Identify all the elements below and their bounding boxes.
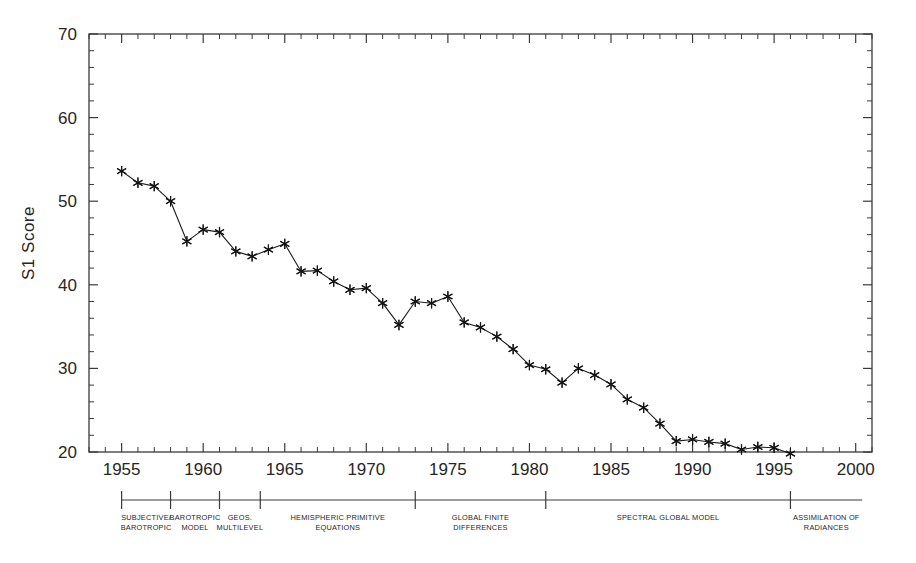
y-tick-label-40: 40: [58, 276, 77, 295]
era-label-line2: RADIANCES: [804, 523, 849, 532]
x-tick-label-1955: 1955: [103, 460, 141, 479]
era-label-line1: ASSIMILATION OF: [793, 513, 860, 522]
era-label-line1: BAROTROPIC: [170, 513, 221, 522]
data-series-line: [122, 171, 791, 454]
data-point-marker: [492, 331, 501, 341]
y-tick-label-70: 70: [58, 25, 77, 44]
x-tick-label-1995: 1995: [755, 460, 793, 479]
x-tick-label-2000: 2000: [837, 460, 875, 479]
chart-container: 203040506070 195519601965197019751980198…: [0, 0, 916, 563]
era-label-line1: SUBJECTIVE/: [121, 513, 172, 522]
era-label-line2: BAROTROPIC: [121, 523, 172, 532]
era-label-line2: MULTILEVEL: [217, 523, 264, 532]
era-label-line1: GLOBAL FINITE: [452, 513, 509, 522]
era-label-line1: GEOS.: [228, 513, 252, 522]
x-tick-label-1980: 1980: [511, 460, 549, 479]
era-label-line2: EQUATIONS: [315, 523, 360, 532]
data-point-marker: [558, 377, 567, 387]
data-point-marker: [541, 364, 550, 374]
era-label-line1: SPECTRAL GLOBAL MODEL: [617, 513, 720, 522]
era-annotation-axis: SUBJECTIVE/BAROTROPICBAROTROPICMODELGEOS…: [121, 491, 863, 532]
era-label-line2: MODEL: [181, 523, 208, 532]
y-tick-label-30: 30: [58, 359, 77, 378]
data-point-marker: [476, 322, 485, 332]
x-tick-label-1960: 1960: [184, 460, 222, 479]
x-tick-label-1975: 1975: [429, 460, 467, 479]
data-point-marker: [182, 236, 191, 246]
data-point-markers: [117, 166, 795, 459]
era-label-line2: DIFFERENCES: [453, 523, 507, 532]
era-label-line1: HEMISPHERIC PRIMITIVE: [290, 513, 385, 522]
series-polyline: [122, 171, 791, 454]
x-axis-ticks: [89, 34, 872, 452]
x-tick-label-1970: 1970: [347, 460, 385, 479]
data-point-marker: [590, 370, 599, 380]
y-axis-tick-labels: 203040506070: [58, 25, 77, 462]
x-tick-label-1985: 1985: [592, 460, 630, 479]
data-point-marker: [460, 317, 469, 327]
y-axis-title-text: S1 Score: [19, 206, 38, 280]
plot-frame: [89, 34, 872, 452]
x-axis-tick-labels: 1955196019651970197519801985199019952000: [103, 460, 875, 479]
y-axis-ticks: [89, 34, 872, 452]
data-point-marker: [443, 291, 452, 301]
data-point-marker: [329, 276, 338, 286]
s1-score-line-chart: 203040506070 195519601965197019751980198…: [0, 0, 916, 563]
y-tick-label-60: 60: [58, 109, 77, 128]
data-point-marker: [786, 448, 795, 458]
data-point-marker: [117, 166, 126, 176]
plot-border: [89, 34, 872, 452]
data-point-marker: [248, 251, 257, 261]
data-point-marker: [574, 363, 583, 373]
data-point-marker: [264, 244, 273, 254]
y-tick-label-50: 50: [58, 192, 77, 211]
x-tick-label-1965: 1965: [266, 460, 304, 479]
data-point-marker: [133, 178, 142, 188]
data-point-marker: [280, 239, 289, 249]
y-axis-title: S1 Score: [19, 206, 38, 280]
y-tick-label-20: 20: [58, 443, 77, 462]
x-tick-label-1990: 1990: [674, 460, 712, 479]
